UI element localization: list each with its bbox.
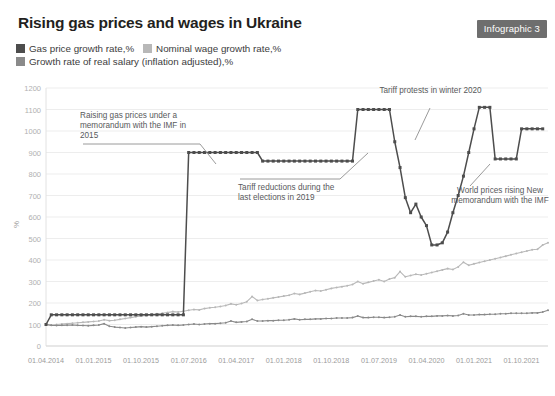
data-point: [267, 320, 269, 322]
data-point: [71, 313, 74, 316]
data-point: [452, 315, 454, 317]
data-point: [319, 160, 322, 163]
data-point: [393, 140, 396, 143]
data-point: [135, 326, 137, 328]
data-point: [77, 324, 79, 326]
data-point: [314, 160, 317, 163]
data-point: [87, 325, 89, 327]
y-axis-tick: 100: [28, 321, 41, 330]
data-point: [488, 106, 491, 109]
data-point: [446, 231, 449, 234]
data-point: [388, 108, 391, 111]
data-point: [214, 323, 216, 325]
data-point: [425, 273, 427, 275]
legend-item-gas-price[interactable]: Gas price growth rate,%: [16, 43, 134, 54]
data-point: [394, 316, 396, 318]
data-point: [357, 281, 359, 283]
data-point: [473, 127, 476, 130]
data-point: [76, 313, 79, 316]
x-axis-tick: 01.01.2021: [456, 356, 492, 365]
legend-swatch-gas-price: [16, 44, 25, 53]
data-point: [298, 160, 301, 163]
data-point: [103, 323, 105, 325]
legend-item-nominal-wage[interactable]: Nominal wage growth rate,%: [143, 43, 281, 54]
data-point: [504, 157, 507, 160]
data-point: [225, 305, 227, 307]
data-point: [314, 318, 316, 320]
data-point: [494, 313, 496, 315]
data-point: [230, 303, 232, 305]
data-point: [92, 313, 95, 316]
data-point: [383, 281, 385, 283]
data-point: [267, 298, 269, 300]
data-point: [283, 295, 285, 297]
data-point: [351, 317, 353, 319]
data-point: [55, 313, 58, 316]
data-point: [447, 314, 449, 316]
data-point: [541, 127, 544, 130]
data-point: [177, 324, 179, 326]
y-axis-tick: 300: [28, 278, 41, 287]
data-point: [547, 242, 549, 244]
data-point: [119, 318, 121, 320]
data-point: [140, 326, 142, 328]
annotation-leader-line: [470, 164, 490, 186]
data-point: [362, 283, 364, 285]
x-axis-tick: 01.01.2015: [76, 356, 112, 365]
data-point: [531, 249, 533, 251]
data-point: [235, 321, 237, 323]
data-point: [510, 254, 512, 256]
data-point: [367, 317, 369, 319]
annotation-tariff-protests: Tariff protests in winter 2020: [368, 86, 493, 96]
data-point: [526, 250, 528, 252]
data-point: [98, 324, 100, 326]
data-point: [441, 315, 443, 317]
data-point: [262, 299, 264, 301]
data-point: [415, 273, 417, 275]
data-point: [124, 317, 126, 319]
data-point: [467, 151, 470, 154]
y-axis-tick: 900: [28, 149, 41, 158]
legend-swatch-nominal-wage: [143, 44, 152, 53]
data-point: [235, 304, 237, 306]
data-point: [272, 320, 274, 322]
data-point: [521, 251, 523, 253]
data-point: [299, 293, 301, 295]
data-point: [103, 319, 105, 321]
data-point: [531, 312, 533, 314]
series-line-1: [46, 243, 548, 325]
data-point: [372, 108, 375, 111]
data-point: [325, 160, 328, 163]
data-point: [499, 313, 501, 315]
legend-item-real-salary[interactable]: Growth rate of real salary (inflation ad…: [16, 56, 233, 67]
data-point: [378, 279, 380, 281]
annotation-world-prices: World prices rising New memorandum with …: [450, 186, 550, 206]
data-point: [171, 313, 174, 316]
data-point: [241, 321, 243, 323]
data-point: [172, 311, 174, 313]
data-point: [447, 268, 449, 270]
data-point: [510, 157, 513, 160]
data-point: [241, 302, 243, 304]
data-point: [425, 315, 427, 317]
data-point: [320, 318, 322, 320]
data-point: [299, 319, 301, 321]
data-point: [520, 127, 523, 130]
data-point: [272, 160, 275, 163]
data-point: [114, 319, 116, 321]
data-point: [219, 305, 221, 307]
data-point: [388, 278, 390, 280]
data-point: [388, 316, 390, 318]
data-point: [547, 309, 549, 311]
data-point: [378, 316, 380, 318]
data-point: [404, 276, 406, 278]
data-point: [457, 266, 459, 268]
data-point: [325, 317, 327, 319]
x-axis-tick: 01.07.2016: [171, 356, 207, 365]
data-point: [151, 326, 153, 328]
data-point: [261, 160, 264, 163]
data-point: [330, 317, 332, 319]
data-point: [346, 317, 348, 319]
data-point: [515, 312, 517, 314]
data-point: [182, 313, 185, 316]
